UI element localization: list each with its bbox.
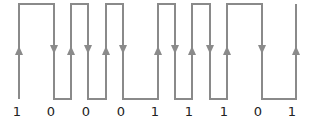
bit-label: 1 <box>179 104 199 120</box>
arrow-up-icon <box>188 46 196 55</box>
arrow-up-icon <box>15 46 23 55</box>
bit-label: 1 <box>214 104 234 120</box>
arrow-down-icon <box>206 45 214 54</box>
bit-label: 0 <box>41 104 61 120</box>
bit-label: 0 <box>111 104 131 120</box>
arrow-down-icon <box>119 45 127 54</box>
bit-label: 0 <box>248 104 268 120</box>
arrow-up-icon <box>223 46 231 55</box>
arrow-up-icon <box>292 46 300 55</box>
arrow-down-icon <box>258 45 266 54</box>
arrow-down-icon <box>50 45 58 54</box>
arrow-down-icon <box>171 45 179 54</box>
bit-label: 1 <box>145 104 165 120</box>
bit-label: 1 <box>282 104 302 120</box>
bit-label: 0 <box>76 104 96 120</box>
arrow-up-icon <box>154 46 162 55</box>
arrow-up-icon <box>102 46 110 55</box>
arrow-up-icon <box>67 46 75 55</box>
arrow-down-icon <box>84 45 92 54</box>
bit-label: 1 <box>7 104 27 120</box>
